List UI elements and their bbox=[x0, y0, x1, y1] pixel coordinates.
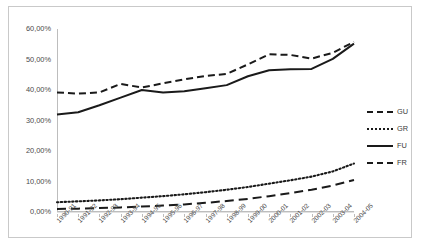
line-chart-svg bbox=[57, 29, 354, 212]
x-axis-labels: 1990-911991-921992-931993-941994-951995-… bbox=[57, 214, 357, 252]
chart-legend: GUGRFUFR bbox=[367, 103, 408, 171]
y-axis-tick-label: 10,00% bbox=[9, 177, 51, 186]
legend-label: GU bbox=[397, 107, 408, 116]
x-axis-tick-label: 2004-05 bbox=[352, 202, 374, 224]
legend-swatch-fr-icon bbox=[367, 159, 393, 167]
chart-frame: 60,00%50,00%40,00%30,00%20,00%10,00%0,00… bbox=[8, 6, 412, 238]
legend-item-gu[interactable]: GU bbox=[367, 103, 408, 120]
legend-item-fu[interactable]: FU bbox=[367, 137, 408, 154]
series-line-gr bbox=[57, 164, 354, 203]
series-lines bbox=[57, 29, 354, 212]
legend-label: FR bbox=[397, 158, 407, 167]
legend-item-gr[interactable]: GR bbox=[367, 120, 408, 137]
series-line-gu bbox=[57, 42, 354, 94]
y-axis-tick-label: 20,00% bbox=[9, 146, 51, 155]
legend-item-fr[interactable]: FR bbox=[367, 154, 408, 171]
legend-swatch-gr-icon bbox=[367, 125, 393, 133]
legend-swatch-gu-icon bbox=[367, 108, 393, 116]
y-axis-tick-label: 40,00% bbox=[9, 85, 51, 94]
y-axis-tick-label: 50,00% bbox=[9, 55, 51, 64]
series-line-fu bbox=[57, 44, 354, 115]
y-axis-tick-label: 60,00% bbox=[9, 24, 51, 33]
y-axis-tick-label: 30,00% bbox=[9, 116, 51, 125]
legend-label: GR bbox=[397, 124, 408, 133]
legend-label: FU bbox=[397, 141, 407, 150]
y-axis-tick-label: 0,00% bbox=[9, 207, 51, 216]
series-line-fr bbox=[57, 180, 354, 209]
legend-swatch-fu-icon bbox=[367, 142, 393, 150]
